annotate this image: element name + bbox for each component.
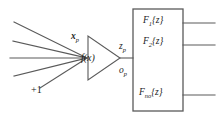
activation-function-label: f(x) bbox=[81, 53, 95, 63]
bias-label: +1 bbox=[31, 85, 42, 95]
input-line-4 bbox=[14, 58, 87, 76]
input-line-5 bbox=[40, 58, 87, 88]
input-vector-label: xp bbox=[71, 32, 79, 43]
filter-label-no: Fno{z} bbox=[139, 88, 163, 99]
filter-label-2: F2{z} bbox=[143, 37, 163, 48]
input-line-2 bbox=[13, 41, 87, 58]
filter-label-1: F1{z} bbox=[143, 16, 163, 27]
neuron-output-label: op bbox=[119, 66, 127, 77]
neuron-block-diagram: xp f(x) zp op +1 F1{z} F2{z} Fno{z} bbox=[0, 0, 221, 118]
diagram-canvas bbox=[0, 0, 221, 118]
net-output-label: zp bbox=[119, 42, 126, 53]
